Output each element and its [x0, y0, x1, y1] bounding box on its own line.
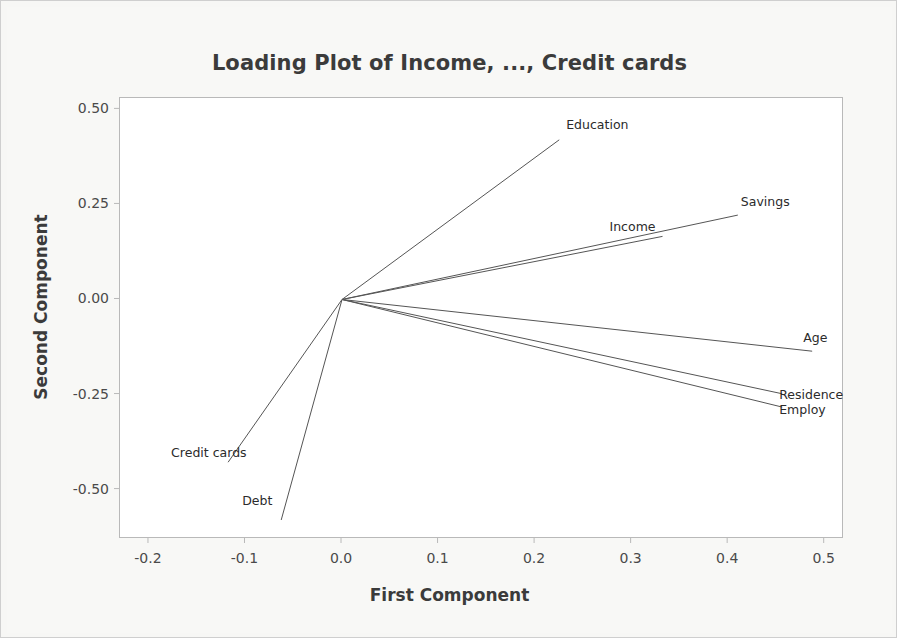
x-axis-tick-label: 0.2: [523, 550, 545, 566]
vector-label: Credit cards: [171, 445, 246, 460]
loading-vector: [342, 299, 812, 351]
vector-label: Income: [610, 219, 656, 234]
loading-vector: [342, 299, 782, 393]
page-title: Loading Plot of Income, ..., Credit card…: [7, 51, 892, 75]
x-axis-tick-label: 0.0: [330, 550, 352, 566]
vector-label: Residence: [779, 387, 843, 402]
vectors-svg: [120, 98, 842, 537]
plot-area: [119, 97, 843, 538]
y-axis-tick-label: 0.00: [63, 290, 109, 306]
x-axis-tick-label: 0.4: [716, 550, 738, 566]
x-axis-tick-label: -0.1: [231, 550, 258, 566]
loading-vector: [228, 299, 342, 462]
y-axis-label: Second Component: [31, 197, 51, 417]
y-axis-tick-label: 0.25: [63, 195, 109, 211]
x-axis-tick-label: 0.3: [619, 550, 641, 566]
y-axis-tick-label: -0.25: [63, 386, 109, 402]
x-axis-tick-label: -0.2: [134, 550, 161, 566]
vector-label: Employ: [779, 402, 826, 417]
x-axis-tick-label: 0.5: [813, 550, 835, 566]
vector-label: Savings: [741, 194, 790, 209]
x-axis-label: First Component: [7, 585, 892, 605]
figure-canvas: Loading Plot of Income, ..., Credit card…: [7, 7, 892, 633]
y-axis-tick-label: -0.50: [63, 481, 109, 497]
loading-plot-figure: Loading Plot of Income, ..., Credit card…: [0, 0, 897, 638]
vector-label: Age: [803, 330, 827, 345]
loading-vector: [342, 236, 662, 299]
x-axis-tick-label: 0.1: [426, 550, 448, 566]
vector-label: Debt: [242, 493, 272, 508]
loading-vector: [342, 299, 782, 407]
loading-vector: [342, 215, 738, 299]
vector-label: Education: [566, 117, 628, 132]
loading-vector: [342, 140, 559, 300]
loading-vector: [281, 299, 342, 520]
y-axis-tick-label: 0.50: [63, 100, 109, 116]
